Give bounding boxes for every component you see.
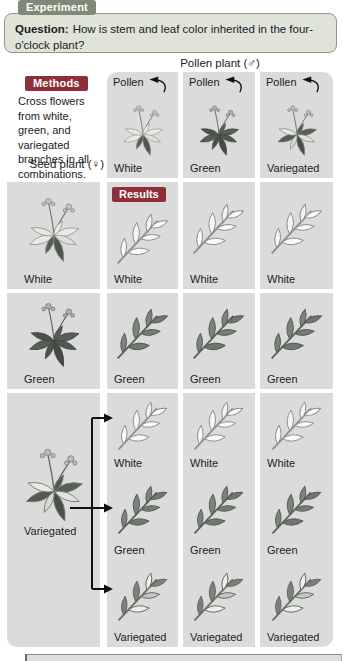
- variegated-plant-photo: [268, 100, 326, 158]
- sprig-green-drawing: [267, 303, 327, 363]
- sprig-white-drawing: [267, 198, 327, 258]
- experiment-tab-label: Experiment: [26, 1, 88, 13]
- experiment-tab: Experiment: [18, 0, 96, 15]
- result-cell: White: [260, 182, 333, 289]
- sprig-green-drawing: [189, 303, 249, 363]
- question-box: Question:How is stem and leaf color inhe…: [4, 13, 337, 53]
- result-label: Green: [107, 373, 178, 389]
- variegated-branch-arrows: [58, 402, 120, 602]
- green-plant-photo: [190, 100, 248, 158]
- result-sub: White: [183, 393, 255, 473]
- result-cell: Green: [107, 293, 178, 389]
- pollen-curved-arrow-icon: [146, 76, 168, 95]
- result-label: Green: [260, 544, 333, 560]
- sprig-green-drawing: [190, 480, 248, 538]
- pollen-caption: Pollen: [260, 72, 333, 95]
- result-label: White: [260, 273, 333, 289]
- sprig-variegated-drawing: [114, 567, 172, 625]
- pollen-caption: Pollen: [107, 72, 178, 95]
- pollen-column-label: Variegated: [260, 162, 333, 178]
- seed-cell-white: White: [7, 182, 100, 289]
- result-cell: Green: [260, 293, 333, 389]
- green-plant-photo: [17, 296, 91, 370]
- seed-plant-header: Seed plant (♀): [0, 158, 104, 170]
- methods-tab-label: Methods: [33, 77, 80, 89]
- sprig-green-drawing: [268, 480, 326, 538]
- result-sub: White: [260, 393, 333, 473]
- sprig-white-drawing: [113, 208, 173, 268]
- result-sub: Variegated: [260, 560, 333, 647]
- pollen-curved-arrow-icon: [299, 76, 321, 95]
- pollen-column-label: White: [107, 162, 178, 178]
- question-label: Question:: [15, 23, 69, 35]
- sprig-green-drawing: [114, 480, 172, 538]
- result-label: Green: [260, 373, 333, 389]
- pollen-label: Pollen: [189, 76, 220, 88]
- seed-row-label: White: [7, 273, 100, 289]
- result-label: Green: [183, 373, 255, 389]
- pollen-curved-arrow-icon: [222, 76, 244, 95]
- result-label: White: [183, 273, 255, 289]
- experiment-figure: Experiment Question:How is stem and leaf…: [0, 0, 343, 661]
- methods-tab: Methods: [25, 76, 88, 91]
- sprig-variegated-drawing: [268, 567, 326, 625]
- pollen-plant-header: Pollen plant (♂): [107, 57, 333, 69]
- result-cell: Green: [183, 293, 255, 389]
- pollen-caption: Pollen: [183, 72, 255, 95]
- white-plant-photo: [114, 100, 172, 158]
- next-panel-edge: [25, 654, 342, 661]
- sprig-white-drawing: [190, 396, 248, 454]
- result-cell-variegated-column: White Green Variegated: [260, 393, 333, 647]
- result-label: White: [107, 273, 178, 289]
- white-plant-photo: [17, 191, 91, 265]
- result-label: Variegated: [107, 631, 178, 647]
- seed-cell-green: Green: [7, 293, 100, 389]
- pollen-label: Pollen: [113, 76, 144, 88]
- result-label: White: [183, 457, 255, 473]
- result-sub: Variegated: [183, 560, 255, 647]
- pollen-cell-variegated: Pollen Variegated: [260, 72, 333, 178]
- sprig-green-drawing: [113, 303, 173, 363]
- seed-row-label: Green: [7, 373, 100, 389]
- sprig-white-drawing: [189, 198, 249, 258]
- result-sub: Green: [183, 473, 255, 560]
- pollen-cell-green: Pollen Green: [183, 72, 255, 178]
- results-tab: Results: [112, 187, 166, 202]
- result-label: Variegated: [260, 631, 333, 647]
- result-label: Green: [183, 544, 255, 560]
- result-label: Variegated: [183, 631, 255, 647]
- result-cell: White: [183, 182, 255, 289]
- sprig-white-drawing: [268, 396, 326, 454]
- pollen-column-label: Green: [183, 162, 255, 178]
- sprig-white-drawing: [114, 396, 172, 454]
- result-label: White: [260, 457, 333, 473]
- result-cell: Results White: [107, 182, 178, 289]
- result-sub: Green: [260, 473, 333, 560]
- pollen-label: Pollen: [266, 76, 297, 88]
- sprig-variegated-drawing: [190, 567, 248, 625]
- pollen-cell-white: Pollen White: [107, 72, 178, 178]
- result-cell-variegated-column: White Green Variegated: [183, 393, 255, 647]
